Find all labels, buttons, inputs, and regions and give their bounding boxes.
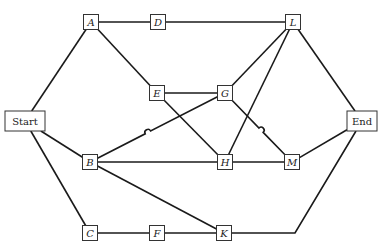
network-diagram: StartADLEGBHMCFKEnd: [0, 0, 388, 249]
node-label: End: [352, 116, 373, 127]
node-k: K: [217, 226, 232, 241]
node-b: B: [83, 155, 98, 170]
edge-e-h: [164, 101, 217, 155]
edge-start-a: [32, 30, 86, 112]
edge-start-c: [31, 131, 86, 226]
node-label: E: [152, 88, 161, 99]
node-label: L: [289, 17, 297, 28]
node-d: D: [151, 15, 166, 30]
node-l: L: [286, 15, 301, 30]
node-start: Start: [5, 111, 45, 131]
node-label: F: [153, 228, 162, 239]
edge-k-end: [232, 131, 357, 233]
node-f: F: [150, 226, 165, 241]
edge-b-k: [98, 166, 217, 229]
node-e: E: [150, 86, 165, 101]
edge-h-l: [229, 30, 290, 155]
edge-g-l: [232, 30, 286, 86]
edge-l-end: [298, 30, 355, 112]
edges-layer: [31, 22, 356, 233]
node-label: K: [219, 228, 228, 239]
edge-start-b: [41, 131, 83, 157]
node-label: G: [221, 88, 229, 99]
edge-a-e: [98, 30, 150, 86]
node-label: C: [86, 228, 94, 239]
edge-m-end: [300, 130, 348, 158]
node-label: D: [153, 17, 162, 28]
node-label: M: [286, 157, 298, 168]
node-g: G: [218, 86, 233, 101]
node-m: M: [285, 155, 300, 170]
edge-b-g: [98, 97, 218, 158]
node-h: H: [218, 155, 233, 170]
node-label: B: [85, 157, 93, 168]
edge-g-m: [232, 101, 284, 155]
node-c: C: [83, 226, 98, 241]
node-a: A: [84, 15, 99, 30]
node-label: A: [86, 17, 94, 28]
node-label: Start: [12, 116, 38, 127]
node-end: End: [347, 111, 377, 131]
node-label: H: [220, 157, 230, 168]
